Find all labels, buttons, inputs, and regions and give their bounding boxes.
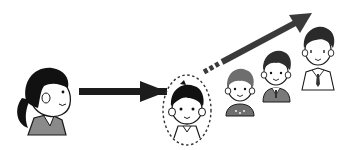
growth-arrow <box>204 13 312 72</box>
growth-illustration <box>0 0 356 150</box>
boy-older-figure <box>261 51 291 102</box>
child-figure <box>169 80 206 138</box>
boy-small-figure <box>225 69 255 116</box>
guide-arrow <box>79 81 167 102</box>
woman-figure <box>17 68 70 135</box>
young-man-figure <box>302 27 334 90</box>
illustration <box>0 0 356 150</box>
